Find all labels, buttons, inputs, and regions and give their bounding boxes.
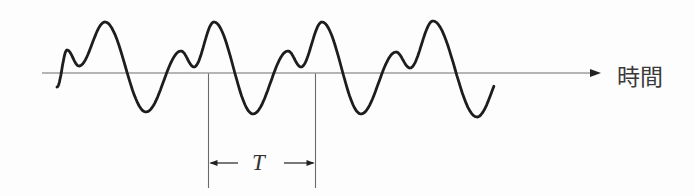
waveform-period-diagram: 時間 T (0, 0, 695, 196)
period-label: T (252, 151, 265, 174)
period-left-arrowhead-icon (210, 160, 218, 166)
waveform-curve (57, 21, 494, 117)
time-axis-arrowhead-icon (590, 69, 601, 77)
period-right-arrowhead-icon (307, 160, 315, 166)
diagram-canvas (0, 0, 695, 196)
time-axis-label: 時間 (617, 66, 663, 89)
